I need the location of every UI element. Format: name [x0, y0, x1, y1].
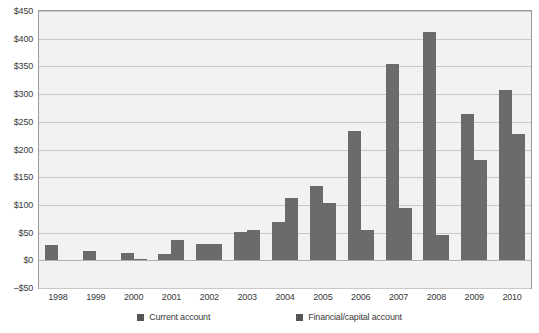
bar-group — [39, 11, 77, 288]
y-axis-tick-label: $450 — [14, 7, 33, 16]
bar-2007-series1 — [386, 64, 399, 261]
bar-group — [77, 11, 115, 288]
gridline--50 — [39, 288, 531, 289]
bar-2006-series1 — [348, 131, 361, 260]
bar-group — [380, 11, 418, 288]
y-axis-tick-label: $150 — [14, 173, 33, 182]
bar-2008-series1 — [423, 32, 436, 261]
legend-swatch-icon — [296, 314, 303, 321]
y-axis-tick-label: $300 — [14, 90, 33, 99]
bar-2004-series2 — [285, 198, 298, 260]
bar-group — [417, 11, 455, 288]
bar-2001-series2 — [171, 240, 184, 260]
x-axis-tick-label-2004: 2004 — [275, 292, 294, 302]
y-axis-tick-label: $50 — [19, 228, 33, 237]
x-axis-tick-label-2005: 2005 — [313, 292, 332, 302]
bar-group — [455, 11, 493, 288]
x-axis: 1998199920002001200220032004200520062007… — [38, 292, 532, 308]
y-axis-tick-label: $250 — [14, 117, 33, 126]
bar-group — [190, 11, 228, 288]
bar-2009-series1 — [461, 114, 474, 261]
bar-2008-series2 — [436, 235, 449, 260]
bar-2006-series2 — [361, 230, 374, 260]
legend-swatch-icon — [137, 314, 144, 321]
x-axis-tick-label-2002: 2002 — [200, 292, 219, 302]
bar-2000-series1 — [121, 253, 134, 261]
y-axis-tick-label: $0 — [23, 256, 33, 265]
x-axis-tick-label-1998: 1998 — [48, 292, 67, 302]
bar-2004-series1 — [272, 222, 285, 260]
bar-2001-series1 — [158, 254, 171, 261]
bar-group — [304, 11, 342, 288]
bar-group — [493, 11, 531, 288]
bar-group — [342, 11, 380, 288]
y-axis-tick-label: –$50 — [14, 284, 33, 293]
plot-area — [38, 10, 532, 289]
bar-1999-series1 — [83, 251, 96, 260]
bar-1998-series1 — [45, 245, 58, 261]
bar-group — [153, 11, 191, 288]
y-axis: $450$400$350$300$250$200$150$100$50$0–$5… — [0, 0, 38, 299]
bar-group — [115, 11, 153, 288]
x-axis-tick-label-2008: 2008 — [427, 292, 446, 302]
x-axis-tick-label-2007: 2007 — [389, 292, 408, 302]
y-axis-tick-label: $200 — [14, 145, 33, 154]
x-axis-tick-label-1999: 1999 — [86, 292, 105, 302]
bar-2010-series2 — [512, 134, 525, 260]
bar-series-container — [39, 11, 531, 288]
x-axis-tick-label-2003: 2003 — [238, 292, 257, 302]
x-axis-tick-label-2001: 2001 — [162, 292, 181, 302]
bar-2003-series2 — [247, 230, 260, 260]
bar-2002-series2 — [209, 244, 222, 261]
x-axis-tick-label-2006: 2006 — [351, 292, 370, 302]
y-axis-tick-label: $350 — [14, 62, 33, 71]
bar-2005-series2 — [323, 203, 336, 260]
bar-2010-series1 — [499, 90, 512, 261]
bar-group — [228, 11, 266, 288]
x-axis-tick-label-2009: 2009 — [465, 292, 484, 302]
bar-2007-series2 — [399, 208, 412, 261]
chart-legend: Current accountFinancial/capital account — [0, 309, 539, 325]
bar-2002-series1 — [196, 244, 209, 261]
bar-group — [266, 11, 304, 288]
bar-2003-series1 — [234, 232, 247, 261]
legend-item-1: Current account — [137, 312, 210, 322]
x-axis-tick-label-2000: 2000 — [124, 292, 143, 302]
y-axis-tick-label: $100 — [14, 200, 33, 209]
y-axis-tick-label: $400 — [14, 34, 33, 43]
x-axis-tick-label-2010: 2010 — [502, 292, 521, 302]
bar-2000-series2 — [134, 259, 147, 260]
bar-2005-series1 — [310, 186, 323, 261]
bar-chart: $450$400$350$300$250$200$150$100$50$0–$5… — [0, 0, 539, 333]
legend-item-2: Financial/capital account — [296, 312, 402, 322]
legend-label: Current account — [149, 312, 210, 322]
legend-label: Financial/capital account — [308, 312, 402, 322]
bar-2009-series2 — [474, 160, 487, 261]
